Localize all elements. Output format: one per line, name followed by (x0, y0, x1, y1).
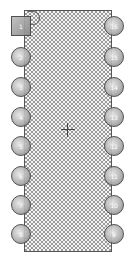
pin-15[interactable]: 15 (104, 47, 124, 67)
pin-16[interactable]: 16 (104, 16, 124, 36)
pin-5[interactable]: 5 (11, 136, 31, 156)
center-crosshair-icon (61, 123, 75, 137)
pin-12[interactable]: 12 (104, 136, 124, 156)
pin-8[interactable]: 8 (11, 224, 31, 244)
pin-13[interactable]: 13 (104, 107, 124, 127)
pin-2[interactable]: 2 (11, 47, 31, 67)
pin-7[interactable]: 7 (11, 195, 31, 215)
pin-14[interactable]: 14 (104, 77, 124, 97)
pin-9[interactable]: 9 (104, 224, 124, 244)
pin-4[interactable]: 4 (11, 107, 31, 127)
pin-1[interactable]: 1 (11, 16, 31, 36)
pin-3[interactable]: 3 (11, 77, 31, 97)
pin-6[interactable]: 6 (11, 166, 31, 186)
pin-10[interactable]: 10 (104, 195, 124, 215)
pin-11[interactable]: 11 (104, 166, 124, 186)
